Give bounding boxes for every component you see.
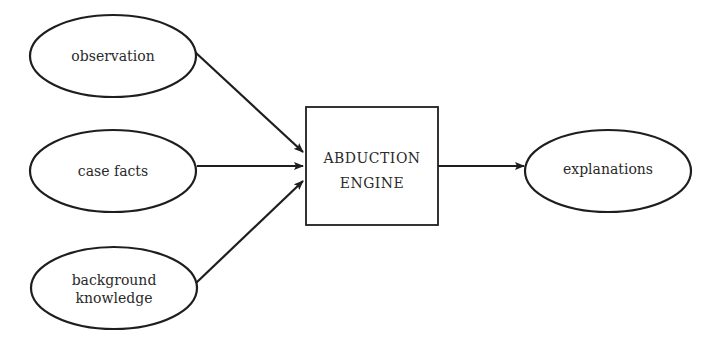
edge-observation-to-engine bbox=[195, 52, 303, 152]
background-knowledge-ellipse bbox=[31, 247, 197, 329]
abduction-diagram: observation case facts background knowle… bbox=[0, 0, 716, 348]
node-explanations: explanations bbox=[525, 130, 691, 212]
node-background-knowledge: background knowledge bbox=[31, 247, 197, 329]
abduction-engine-label-line1: ABDUCTION bbox=[322, 150, 420, 166]
node-case-facts: case facts bbox=[30, 130, 196, 212]
node-abduction-engine: ABDUCTION ENGINE bbox=[306, 107, 438, 225]
background-knowledge-label-line1: background bbox=[72, 272, 157, 288]
explanations-label: explanations bbox=[563, 161, 653, 177]
background-knowledge-label-line2: knowledge bbox=[76, 290, 153, 306]
node-observation: observation bbox=[30, 15, 196, 97]
abduction-engine-box bbox=[306, 107, 438, 225]
abduction-engine-label-line2: ENGINE bbox=[340, 175, 405, 191]
edge-background-knowledge-to-engine bbox=[196, 181, 303, 283]
case-facts-label: case facts bbox=[78, 163, 148, 179]
observation-label: observation bbox=[71, 48, 154, 64]
